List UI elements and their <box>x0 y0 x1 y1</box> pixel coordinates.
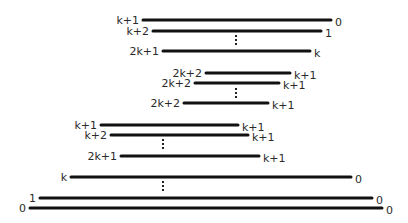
vertical-ellipsis-icon <box>162 139 164 149</box>
right-endpoint-label: 0 <box>335 16 342 29</box>
left-endpoint-label: 1 <box>29 192 36 205</box>
ellipsis-dot <box>162 147 164 149</box>
right-endpoint-label: k+1 <box>252 131 275 144</box>
ellipsis-dot <box>235 35 237 37</box>
right-endpoint-label: k+1 <box>272 99 295 112</box>
vertical-ellipsis-icon <box>235 35 237 45</box>
right-endpoint-label: k <box>314 47 321 60</box>
left-endpoint-label: 2k+2 <box>150 97 180 110</box>
segment-group-3: k+1k+1k+2k+12k+1k+1 <box>74 119 285 165</box>
vertical-ellipsis-icon <box>162 181 164 191</box>
vertical-ellipsis-icon <box>235 88 237 98</box>
diagram-svg: k+10k+212k+1k2k+2k+12k+2k+12k+2k+1k+1k+1… <box>0 0 408 223</box>
right-endpoint-label: 1 <box>325 27 332 40</box>
right-endpoint-label: 0 <box>386 204 393 217</box>
right-endpoint-label: k+1 <box>283 79 306 92</box>
ellipsis-dot <box>235 92 237 94</box>
ellipsis-dot <box>162 139 164 141</box>
right-endpoint-label: 0 <box>376 194 383 207</box>
left-endpoint-label: 2k+1 <box>129 45 159 58</box>
right-endpoint-label: k+1 <box>263 152 286 165</box>
ellipsis-dot <box>162 143 164 145</box>
left-endpoint-label: 2k+1 <box>87 150 117 163</box>
ellipsis-dot <box>162 189 164 191</box>
left-endpoint-label: 2k+2 <box>161 77 191 90</box>
segment-group-1: k+10k+212k+1k <box>116 14 342 60</box>
left-endpoint-label: k+2 <box>126 25 149 38</box>
left-endpoint-label: k+2 <box>84 129 107 142</box>
segment-group-2: 2k+2k+12k+2k+12k+2k+1 <box>150 67 316 112</box>
left-endpoint-label: k <box>61 171 68 184</box>
right-endpoint-label: 0 <box>355 173 362 186</box>
interval-diagram: k+10k+212k+1k2k+2k+12k+2k+12k+2k+1k+1k+1… <box>0 0 408 223</box>
ellipsis-dot <box>235 96 237 98</box>
ellipsis-dot <box>235 43 237 45</box>
left-endpoint-label: 0 <box>19 202 26 215</box>
ellipsis-dot <box>235 39 237 41</box>
ellipsis-dot <box>235 88 237 90</box>
segment-group-4: k01000 <box>19 171 393 217</box>
ellipsis-dot <box>162 185 164 187</box>
ellipsis-dot <box>162 181 164 183</box>
